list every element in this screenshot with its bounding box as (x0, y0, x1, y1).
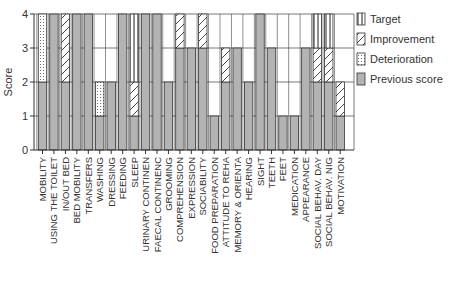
x-tick-label: SLEEP (129, 157, 140, 188)
bar-segment-improvement (336, 82, 344, 116)
bar-segment-improvement (325, 48, 333, 82)
bar-segment-previous (233, 48, 241, 150)
y-tick-label: 3 (22, 42, 28, 54)
bar-segment-previous (84, 14, 92, 150)
bar-motivation (335, 14, 345, 150)
legend-item-target: Target (357, 13, 401, 25)
x-tick-label: APPEARANCE (300, 157, 311, 222)
stacked-bar-chart: 01234 MOBILITYUSING THE TOILETIN/OUT BED… (0, 0, 449, 283)
legend-label: Deterioration (370, 53, 433, 65)
x-tick-label: HEARING (243, 157, 254, 200)
x-tick-label: URINARY CONTINEN (140, 157, 151, 252)
y-tick-label: 0 (22, 144, 28, 156)
x-tick-label: SOCIABILITY (197, 156, 208, 215)
bar-segment-deterioration (38, 14, 46, 82)
bar-segment-previous (244, 82, 252, 150)
bar-mobility (37, 14, 47, 150)
bar-segment-previous (130, 116, 138, 150)
bar-feeding (117, 14, 127, 150)
x-tick-label: MOBILITY (37, 156, 48, 201)
bar-segment-previous (176, 48, 184, 150)
bar-social-behav-nig (323, 14, 333, 150)
bar-transfers (83, 14, 93, 150)
bar-segment-previous (61, 82, 69, 150)
bar-segment-previous (118, 14, 126, 150)
bar-segment-previous (336, 116, 344, 150)
x-tick-label: SOCIAL BEHAV. NIG (323, 157, 334, 247)
y-tick-label: 4 (22, 8, 28, 20)
x-tick-label: MEMORY & ORIENTA (232, 156, 243, 252)
x-tick-label: TRANSFERS (83, 157, 94, 215)
bar-segment-previous (313, 82, 321, 150)
legend-label: Improvement (370, 33, 434, 45)
bar-social-behav-day (312, 14, 322, 150)
x-tick-label: USING THE TOILET (48, 157, 59, 244)
x-tick-label: MOTIVATION (335, 157, 346, 215)
x-tick-label: SOCIAL BEHAV. DAY (312, 156, 323, 249)
bar-urinary-continen (140, 14, 150, 150)
bar-segment-previous (302, 48, 310, 150)
bar-segment-previous (199, 48, 207, 150)
y-tick-label: 2 (22, 76, 28, 88)
x-tick-label: FAECAL CONTINENC (152, 157, 163, 252)
bar-segment-previous (107, 82, 115, 150)
x-tick-label: MEDICATION (289, 157, 300, 216)
bar-segment-deterioration (96, 82, 104, 116)
legend-swatch-previous (357, 73, 365, 85)
bar-comprehension (174, 14, 184, 150)
bar-segment-target (325, 14, 333, 48)
bar-segment-improvement (130, 82, 138, 116)
legend-label: Target (370, 13, 401, 25)
bar-using-the-toilet (48, 14, 58, 150)
bar-faecal-continenc (151, 14, 161, 150)
bar-segment-improvement (222, 48, 230, 82)
legend-swatch-deterioration (357, 53, 365, 65)
bar-segment-previous (267, 48, 275, 150)
bar-segment-improvement (199, 14, 207, 48)
legend-swatch-target (357, 13, 365, 25)
bar-segment-previous (141, 14, 149, 150)
legend-label: Previous score (370, 73, 443, 85)
bar-dressing (106, 14, 116, 150)
legend-item-improvement: Improvement (357, 33, 434, 45)
bar-sociability (197, 14, 207, 150)
bar-segment-previous (279, 116, 287, 150)
bar-segment-target (130, 14, 138, 82)
x-tick-label: FEET (277, 157, 288, 181)
y-tick-label: 1 (22, 110, 28, 122)
bar-segment-improvement (176, 14, 184, 48)
bar-memory-orienta (231, 14, 241, 150)
bar-bed-mobility (71, 14, 81, 150)
x-axis-labels: MOBILITYUSING THE TOILETIN/OUT BEDBED MO… (37, 156, 346, 253)
bar-teeth (266, 14, 276, 150)
bar-segment-previous (153, 14, 161, 150)
x-tick-label: FOOD PREPARATION (209, 157, 220, 254)
bar-segment-previous (38, 82, 46, 150)
bar-grooming (163, 14, 173, 150)
bar-hearing (243, 14, 253, 150)
bar-segment-previous (187, 48, 195, 150)
x-tick-label: DRESSING (106, 157, 117, 207)
bar-washing (94, 14, 104, 150)
x-tick-label: ATTITUDE TO REHA (220, 156, 231, 247)
x-tick-label: TEETH (266, 157, 277, 188)
x-tick-label: EXPRESSION (186, 157, 197, 219)
bar-segment-previous (96, 116, 104, 150)
bar-segment-previous (290, 116, 298, 150)
x-tick-label: COMPREHENSION (174, 157, 185, 242)
x-tick-label: WASHING (94, 157, 105, 202)
legend-item-deterioration: Deterioration (357, 53, 433, 65)
bar-appearance (300, 14, 310, 150)
x-tick-label: BED MOBILITY (71, 156, 82, 223)
bar-attitude-to-reha (220, 14, 230, 150)
legend-swatch-improvement (357, 33, 365, 45)
bar-segment-improvement (313, 48, 321, 82)
bar-segment-previous (50, 14, 58, 150)
legend: TargetImprovementDeteriorationPrevious s… (357, 13, 443, 85)
bar-segment-previous (256, 14, 264, 150)
bar-segment-previous (222, 82, 230, 150)
legend-item-previous: Previous score (357, 73, 443, 85)
bar-in-out-bed (60, 14, 70, 150)
y-axis-label: Score (2, 68, 14, 97)
x-tick-label: SIGHT (255, 157, 266, 186)
